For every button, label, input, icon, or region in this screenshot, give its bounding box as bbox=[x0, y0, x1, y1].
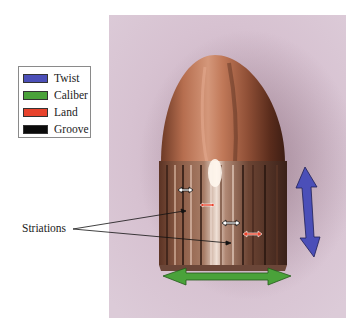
twist-arrow-icon bbox=[296, 167, 320, 257]
striations-label: Striations bbox=[22, 222, 66, 234]
land-marker-icon bbox=[200, 203, 215, 207]
land-marker-icon bbox=[243, 231, 262, 237]
striations-leader-lines bbox=[73, 209, 231, 245]
annotation-overlay bbox=[0, 0, 364, 333]
groove-marker-icon bbox=[222, 220, 240, 226]
caliber-arrow-icon bbox=[163, 268, 291, 285]
groove-marker-icon bbox=[178, 187, 193, 193]
